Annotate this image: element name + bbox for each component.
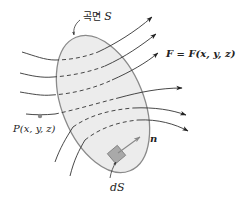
patch-label: dS (110, 182, 125, 193)
surface-label-pointer (74, 20, 80, 35)
surface-label: 곡면 S (83, 11, 112, 22)
field-label: F = F(x, y, z) (166, 49, 235, 59)
normal-label: n (150, 134, 157, 144)
point-p-dot (38, 114, 42, 118)
surface-s (38, 22, 168, 186)
surface-label-var: S (104, 10, 112, 23)
flow-line-1 (22, 52, 55, 60)
point-label: P(x, y, z) (13, 124, 55, 134)
flow-line-2 (20, 73, 53, 77)
flow-line-3 (20, 92, 52, 95)
surface-label-prefix: 곡면 (83, 11, 101, 22)
surface-integral-diagram: 곡면 S F = F(x, y, z) P(x, y, z) n dS (0, 0, 240, 203)
